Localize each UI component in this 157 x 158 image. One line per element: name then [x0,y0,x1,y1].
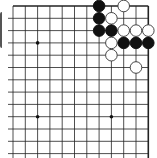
white-stone[interactable] [106,37,118,49]
black-stone[interactable] [93,12,105,24]
star-point-icon [36,115,40,119]
white-stone[interactable] [130,25,142,37]
white-stone[interactable] [118,0,130,12]
white-stone[interactable] [106,12,118,24]
black-stone[interactable] [143,37,155,49]
black-stone[interactable] [118,37,130,49]
white-stone[interactable] [143,25,155,37]
black-stone[interactable] [130,37,142,49]
white-stone[interactable] [130,62,142,74]
black-stone[interactable] [93,0,105,12]
go-board[interactable] [0,0,157,158]
black-stone[interactable] [93,25,105,37]
star-point-icon [110,115,114,119]
white-stone[interactable] [106,49,118,61]
black-stone[interactable] [106,25,118,37]
star-point-icon [36,41,40,45]
white-stone[interactable] [118,25,130,37]
